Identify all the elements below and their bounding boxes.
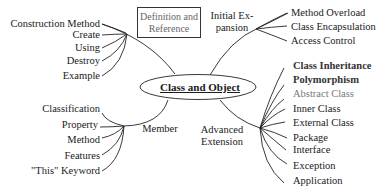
leaf-line-create: [102, 34, 127, 35]
leaf-application[interactable]: Application: [293, 175, 343, 187]
leaf-package[interactable]: Package: [293, 132, 328, 144]
leaf-line-classification: [102, 113, 124, 126]
leaf-abstract-class[interactable]: Abstract Class: [293, 88, 354, 100]
definition-box-line1: Definition and: [138, 11, 200, 23]
leaf-class-inheritance[interactable]: Class Inheritance: [293, 60, 371, 72]
leaf-exception[interactable]: Exception: [293, 160, 336, 172]
leaf-line-exception: [260, 128, 287, 164]
leaf-using[interactable]: Using: [75, 42, 100, 54]
definition-box-line2: Reference: [138, 23, 200, 35]
leaf-method[interactable]: Method: [67, 134, 100, 146]
leaf-line-external: [260, 122, 285, 128]
leaf-line-access: [256, 29, 287, 41]
branch-label-initial-expansion[interactable]: Initial Ex- pansion: [204, 10, 260, 34]
leaf-create[interactable]: Create: [73, 29, 100, 41]
leaf-line-package: [260, 128, 287, 138]
leaf-line-example: [102, 34, 127, 76]
leaf-classification[interactable]: Classification: [42, 103, 100, 115]
leaf-line-construction: [102, 24, 126, 33]
leaf-line-this: [102, 126, 124, 171]
center-node-label[interactable]: Class and Object: [152, 81, 248, 93]
leaf-destroy[interactable]: Destroy: [67, 55, 100, 67]
initial-expansion-line2: pansion: [204, 22, 260, 34]
leaf-class-encapsulation[interactable]: Class Encapsulation: [291, 21, 376, 33]
leaf-this-keyword[interactable]: "This" Keyword: [31, 165, 100, 177]
branch-label-member[interactable]: Member: [136, 123, 184, 135]
leaf-external-class[interactable]: External Class: [293, 117, 354, 129]
advanced-extension-line2: Extension: [196, 136, 248, 148]
leaf-line-application: [260, 128, 284, 183]
leaf-line-property: [100, 126, 124, 127]
leaf-polymorphism[interactable]: Polymorphism: [293, 74, 359, 86]
leaf-access-control[interactable]: Access Control: [291, 35, 355, 47]
initial-expansion-line1: Initial Ex-: [204, 10, 260, 22]
leaf-method-overload[interactable]: Method Overload: [291, 7, 365, 19]
leaf-inner-class[interactable]: Inner Class: [293, 103, 341, 115]
branch-label-advanced-extension[interactable]: Advanced Extension: [196, 124, 248, 148]
leaf-line-destroy: [102, 34, 127, 61]
leaf-interface[interactable]: Interface: [293, 144, 330, 156]
definition-reference-box[interactable]: Definition and Reference: [137, 7, 201, 38]
leaf-property[interactable]: Property: [62, 119, 98, 131]
leaf-line-features: [102, 126, 124, 155]
advanced-extension-line1: Advanced: [196, 124, 248, 136]
leaf-features[interactable]: Features: [64, 150, 100, 162]
leaf-example[interactable]: Example: [63, 70, 100, 82]
